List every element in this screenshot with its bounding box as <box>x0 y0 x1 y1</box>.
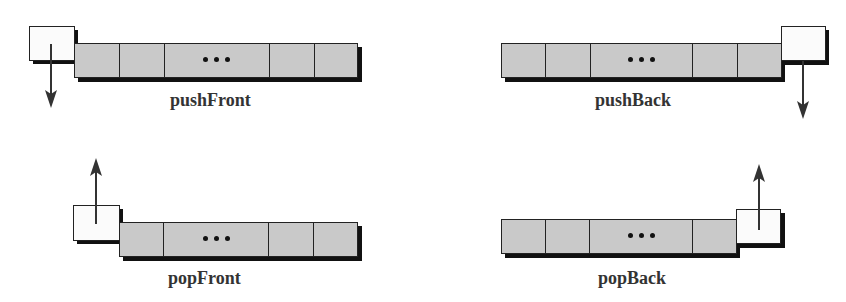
ellipsis-icon <box>203 236 230 241</box>
deque-cell <box>501 219 546 254</box>
ellipsis-icon <box>628 57 655 62</box>
deque-cell <box>313 222 358 257</box>
deque-cell-ellipsis <box>164 43 270 78</box>
new-element-box <box>781 26 826 61</box>
deque-cell <box>268 222 314 257</box>
arrow-down-icon <box>45 44 57 110</box>
arrow-up-icon <box>90 156 102 226</box>
deque-cell <box>314 43 358 78</box>
deque-cell <box>119 222 165 257</box>
arrow-down-icon <box>797 61 809 121</box>
deque-cell-ellipsis <box>163 222 269 257</box>
operation-label: pushFront <box>170 90 251 111</box>
deque-cell <box>269 43 315 78</box>
deque-cell <box>692 219 737 254</box>
ellipsis-icon <box>628 233 655 238</box>
deque-cell <box>545 219 590 254</box>
deque-cell <box>692 43 738 78</box>
ellipsis-icon <box>203 57 230 62</box>
arrow-up-icon <box>753 162 765 232</box>
operation-label: pushBack <box>595 90 671 111</box>
deque-cell <box>737 43 782 78</box>
deque-cell-ellipsis <box>589 219 693 254</box>
deque-cell-ellipsis <box>590 43 693 78</box>
deque-cell <box>501 43 546 78</box>
deque-cell <box>545 43 591 78</box>
operation-label: popFront <box>168 268 241 289</box>
deque-cell <box>74 43 120 78</box>
operation-label: popBack <box>598 268 666 289</box>
deque-cell <box>119 43 165 78</box>
